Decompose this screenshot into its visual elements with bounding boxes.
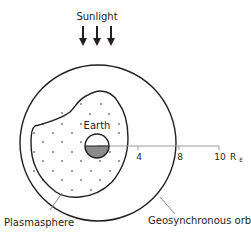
axis-tick-4: 4 xyxy=(136,152,142,162)
axis-unit-sub: E xyxy=(239,156,243,163)
plasmasphere-label: Plasmasphere xyxy=(4,217,74,228)
plasmasphere-boundary xyxy=(31,91,128,197)
axis-unit-base: R xyxy=(230,152,236,162)
down-arrow-icon xyxy=(107,26,115,46)
sunlight-arrows-icon xyxy=(79,26,115,46)
plasmasphere-leader xyxy=(50,193,62,210)
down-arrow-icon xyxy=(93,26,101,46)
axis-unit-label: R E xyxy=(230,152,243,163)
earth-circle-icon xyxy=(85,134,109,158)
geosynchronous-orbit-circle xyxy=(20,65,176,221)
radial-axis xyxy=(97,146,219,150)
down-arrow-icon xyxy=(79,26,87,46)
axis-tick-8: 8 xyxy=(177,152,183,162)
geosynchronous-orbit-label: Geosynchronous orbit xyxy=(148,215,251,226)
axis-tick-10: 10 xyxy=(214,152,226,162)
sunlight-label: Sunlight xyxy=(76,11,117,22)
plasmasphere-diagram: Sunlight 4 xyxy=(0,0,251,242)
earth-label: Earth xyxy=(84,120,111,131)
geosynchronous-orbit-leader xyxy=(160,197,175,214)
